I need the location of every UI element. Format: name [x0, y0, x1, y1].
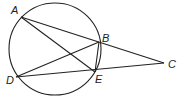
- segment-ac: [21, 17, 164, 63]
- label-c: C: [168, 58, 176, 70]
- segment-dc: [16, 63, 164, 77]
- label-e: E: [95, 73, 103, 85]
- label-b: B: [102, 32, 109, 44]
- label-d: D: [6, 74, 14, 86]
- geometry-diagram: A B C D E: [0, 0, 177, 98]
- segment-ae: [21, 17, 95, 72]
- segment-db: [16, 42, 99, 77]
- circle: [9, 3, 101, 95]
- label-a: A: [10, 4, 18, 16]
